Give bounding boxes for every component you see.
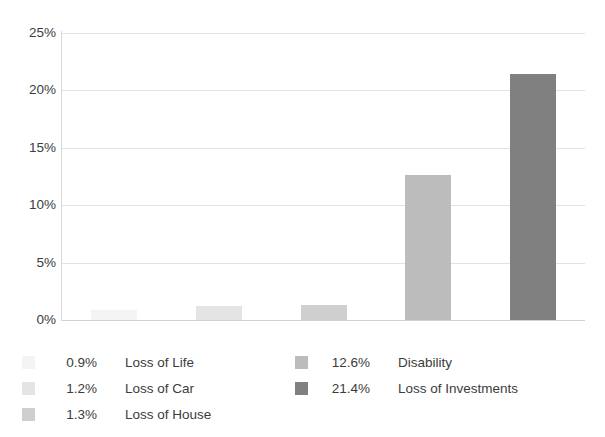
bar-loss-of-car — [196, 306, 242, 320]
legend-label: Loss of Car — [103, 381, 194, 396]
chart-legend: 0.9%Loss of Life1.2%Loss of Car1.3%Loss … — [22, 352, 587, 422]
legend-item: 0.9%Loss of Life — [22, 352, 211, 373]
legend-value: 1.2% — [35, 381, 103, 396]
legend-swatch-icon — [22, 408, 35, 421]
gridline-15 — [62, 148, 585, 149]
legend-label: Disability — [376, 355, 452, 370]
legend-item: 1.3%Loss of House — [22, 404, 211, 425]
gridline-0 — [62, 320, 585, 321]
gridline-5 — [62, 263, 585, 264]
legend-value: 12.6% — [308, 355, 376, 370]
legend-swatch-icon — [295, 356, 308, 369]
y-axis-tick-label: 5% — [10, 256, 56, 270]
plot-area — [62, 33, 585, 320]
legend-swatch-icon — [22, 382, 35, 395]
legend-item: 1.2%Loss of Car — [22, 378, 211, 399]
bar-disability — [405, 175, 451, 320]
legend-swatch-icon — [295, 382, 308, 395]
y-axis-tick-label: 25% — [10, 26, 56, 40]
bar-loss-of-life — [91, 310, 137, 320]
gridline-25 — [62, 33, 585, 34]
bar-loss-of-house — [301, 305, 347, 320]
y-axis-tick-label: 0% — [10, 313, 56, 327]
bar-loss-of-investments — [510, 74, 556, 320]
y-axis-tick-label: 15% — [10, 141, 56, 155]
gridline-20 — [62, 90, 585, 91]
y-axis-tick-label: 20% — [10, 83, 56, 97]
y-axis-tick-label: 10% — [10, 198, 56, 212]
legend-label: Loss of Investments — [376, 381, 518, 396]
legend-item: 12.6%Disability — [295, 352, 518, 373]
legend-column-right: 12.6%Disability21.4%Loss of Investments — [295, 352, 518, 404]
legend-item: 21.4%Loss of Investments — [295, 378, 518, 399]
legend-value: 1.3% — [35, 407, 103, 422]
gridline-10 — [62, 205, 585, 206]
bar-chart: 0%5%10%15%20%25% 0.9%Loss of Life1.2%Los… — [0, 0, 605, 437]
legend-swatch-icon — [22, 356, 35, 369]
legend-label: Loss of Life — [103, 355, 194, 370]
legend-label: Loss of House — [103, 407, 211, 422]
legend-value: 21.4% — [308, 381, 376, 396]
legend-column-left: 0.9%Loss of Life1.2%Loss of Car1.3%Loss … — [22, 352, 211, 430]
legend-value: 0.9% — [35, 355, 103, 370]
